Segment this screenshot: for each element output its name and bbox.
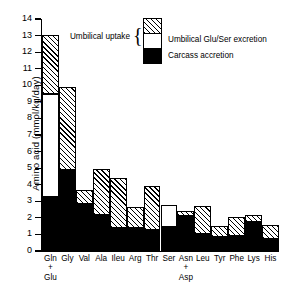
bar-segment-white <box>161 205 178 227</box>
y-tick-label: 13 <box>14 31 32 40</box>
bar-segment-hatched <box>127 207 144 228</box>
y-tick-mark <box>35 18 41 19</box>
bar-segment-hatched <box>245 215 262 222</box>
y-tick-mark <box>35 184 41 185</box>
y-tick-label: 3 <box>14 196 32 205</box>
bar-segment-solid-black <box>76 204 93 251</box>
y-tick-mark <box>35 134 41 135</box>
y-tick-mark <box>35 234 41 235</box>
y-tick-mark <box>35 201 41 202</box>
legend-label-umbilical-excretion: Umbilical Glu/Ser excretion <box>168 35 267 44</box>
bar-segment-hatched <box>42 35 59 94</box>
bar-segment-solid-black <box>42 197 59 251</box>
bar-segment-hatched <box>262 225 279 239</box>
bar-segment-solid-black <box>59 170 76 251</box>
y-tick-label: 6 <box>14 147 32 156</box>
bar-segment-solid-black <box>93 215 110 251</box>
bar-segment-hatched <box>59 87 76 170</box>
y-tick-label: 8 <box>14 113 32 122</box>
bar-segment-solid-black <box>262 239 279 251</box>
y-tick-mark <box>35 217 41 218</box>
bar-segment-solid-black <box>228 236 245 251</box>
x-tick-label-line: His <box>265 254 277 263</box>
bar-group <box>42 19 59 251</box>
bar-segment-solid-black <box>194 234 211 251</box>
bar-segment-solid-black <box>177 216 194 251</box>
bar-segment-hatched <box>76 190 93 204</box>
y-tick-label: 1 <box>14 229 32 238</box>
legend-swatch-stack <box>143 18 162 64</box>
bar-segment-solid-black <box>144 230 161 251</box>
y-tick-label: 12 <box>14 47 32 56</box>
y-tick-label: 11 <box>14 64 32 73</box>
y-tick-mark <box>35 68 41 69</box>
bar-segment-solid-black <box>211 237 228 251</box>
y-tick-mark <box>35 151 41 152</box>
legend-label-carcass-accretion: Carcass accretion <box>168 51 234 60</box>
y-tick-mark <box>35 85 41 86</box>
x-tick-label: His <box>255 254 287 263</box>
bar-segment-solid-black <box>245 222 262 251</box>
bar-segment-solid-black <box>127 228 144 251</box>
y-tick-label: 9 <box>14 97 32 106</box>
bar-segment-hatched <box>177 211 194 216</box>
chart-legend: Umbilical uptake { Umbilical Glu/Ser exc… <box>60 18 288 66</box>
y-tick-mark <box>35 52 41 53</box>
y-tick-label: 0 <box>14 246 32 255</box>
legend-brace-icon: { <box>133 22 140 48</box>
y-tick-label: 14 <box>14 14 32 23</box>
y-tick-label: 10 <box>14 80 32 89</box>
legend-swatch-carcass-accretion <box>144 49 161 63</box>
x-tick-label-line: + <box>170 263 202 272</box>
x-tick-label-line: Glu <box>34 273 66 282</box>
y-tick-label: 4 <box>14 180 32 189</box>
bar-segment-hatched <box>211 226 228 237</box>
legend-swatch-umbilical-uptake <box>144 19 161 34</box>
bar-segment-hatched <box>228 217 245 236</box>
amino-acid-stacked-bar-chart: Amino acid (mmol/kg/day) 012345678910111… <box>0 0 289 291</box>
y-tick-mark <box>35 168 41 169</box>
y-tick-mark <box>35 101 41 102</box>
bar-segment-hatched <box>194 206 211 234</box>
x-tick-label-line: Asp <box>170 273 202 282</box>
bar-segment-white <box>42 94 59 198</box>
bar-segment-hatched <box>93 169 110 215</box>
y-tick-mark <box>35 35 41 36</box>
legend-umbilical-uptake-label: Umbilical uptake <box>60 32 130 41</box>
y-tick-label: 2 <box>14 213 32 222</box>
bar-segment-hatched <box>110 178 127 228</box>
y-tick-mark <box>35 250 41 251</box>
bar-segment-hatched <box>144 186 161 230</box>
y-tick-label: 7 <box>14 130 32 139</box>
y-tick-mark <box>35 118 41 119</box>
y-tick-label: 5 <box>14 163 32 172</box>
x-tick-label-line: + <box>34 263 66 272</box>
bar-segment-solid-black <box>161 227 178 251</box>
legend-swatch-umbilical-excretion <box>144 34 161 49</box>
bar-segment-solid-black <box>110 228 127 251</box>
